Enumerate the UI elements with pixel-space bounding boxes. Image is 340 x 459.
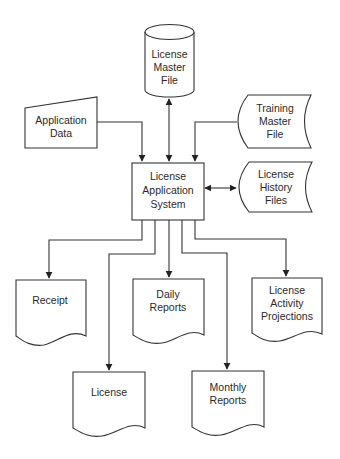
node-license-application-system: License Application System (132, 163, 204, 220)
edge-application-data-system (97, 122, 142, 161)
node-daily-reports: Daily Reports (133, 279, 204, 343)
node-label-line: Reports (150, 301, 187, 313)
node-label-line: License (150, 170, 186, 182)
node-label-line: Master (259, 115, 292, 127)
node-label-line: Reports (210, 394, 247, 406)
node-label-line: Activity (270, 297, 304, 309)
document-shape (16, 280, 86, 345)
license-system-flowchart: License Master File Application Data Tra… (0, 0, 340, 459)
edge-training-file-system (195, 122, 237, 161)
edge-system-activity-projections (195, 220, 286, 276)
node-application-data: Application Data (25, 97, 97, 148)
node-label-line: License (91, 386, 127, 398)
node-label-line: Projections (261, 310, 313, 322)
node-label-line: Data (50, 127, 72, 139)
node-label-line: Application (142, 184, 194, 196)
node-receipt: Receipt (16, 280, 86, 345)
node-license-master-file: License Master File (145, 25, 194, 98)
node-label-line: License (258, 168, 294, 180)
node-label-line: Training (256, 102, 294, 114)
document-shape (73, 372, 145, 436)
edge-system-receipt (49, 220, 142, 278)
node-label-line: Files (265, 194, 287, 206)
node-label-line: Application (35, 114, 87, 126)
node-label-line: License (151, 48, 187, 60)
node-label-line: Daily (156, 288, 180, 300)
node-license: License (73, 372, 145, 436)
node-label-line: Monthly (210, 381, 248, 393)
node-label-line: File (267, 128, 284, 140)
node-license-activity-projections: License Activity Projections (252, 278, 322, 341)
node-label-line: Receipt (32, 294, 68, 306)
node-label-line: File (161, 74, 178, 86)
node-label-line: License (269, 284, 305, 296)
node-license-history-files: License History Files (239, 162, 312, 212)
node-training-master-file: Training Master File (238, 95, 311, 148)
node-label-line: History (260, 181, 293, 193)
node-label-line: System (150, 198, 185, 210)
node-label-line: Master (153, 61, 186, 73)
node-monthly-reports: Monthly Reports (192, 371, 264, 435)
cylinder-top (145, 25, 194, 40)
